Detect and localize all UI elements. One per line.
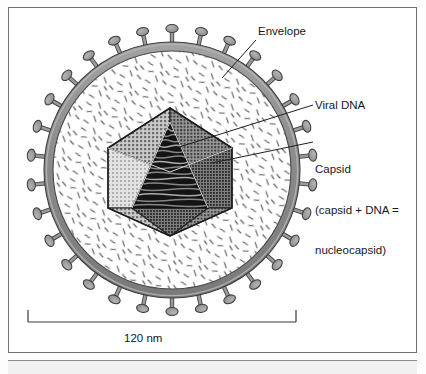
scale-bar	[28, 310, 296, 322]
label-capsid: Capsid (capsid + DNA = nucleocapsid)	[315, 136, 399, 285]
label-capsid-line2: (capsid + DNA =	[315, 204, 399, 218]
caption-band	[8, 360, 417, 374]
label-envelope: Envelope	[258, 25, 306, 39]
label-capsid-line1: Capsid	[315, 163, 399, 177]
scale-bar-label: 120 nm	[124, 332, 162, 344]
virus-structure-figure: Envelope Viral DNA Capsid (capsid + DNA …	[0, 0, 426, 374]
label-capsid-line3: nucleocapsid)	[315, 244, 399, 258]
label-viral-dna: Viral DNA	[315, 99, 365, 113]
